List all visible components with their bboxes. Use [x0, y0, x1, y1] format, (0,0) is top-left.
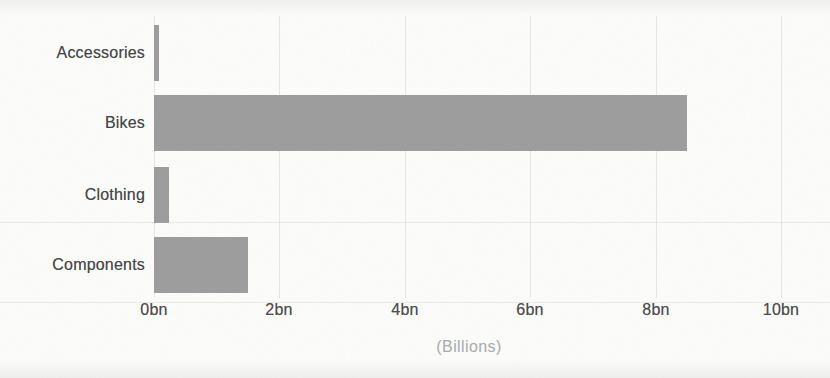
category-label-components: Components — [0, 255, 145, 275]
x-tick-2bn: 2bn — [249, 301, 309, 319]
gridline-8bn — [656, 16, 657, 298]
category-label-accessories: Accessories — [0, 43, 145, 63]
x-tick-10bn: 10bn — [751, 301, 811, 319]
gridline-6bn — [530, 16, 531, 298]
bar-chart-visual: AccessoriesBikesClothingComponents0bn2bn… — [0, 0, 830, 378]
gridline-2bn — [279, 16, 280, 298]
bar-components[interactable] — [154, 237, 248, 293]
category-label-clothing: Clothing — [0, 185, 145, 205]
bar-accessories[interactable] — [154, 25, 159, 81]
x-tick-6bn: 6bn — [500, 301, 560, 319]
plot-area: AccessoriesBikesClothingComponents0bn2bn… — [0, 0, 830, 378]
x-axis-title: (Billions) — [154, 338, 784, 356]
gridline-10bn — [781, 16, 782, 298]
chart-page: AccessoriesBikesClothingComponents0bn2bn… — [0, 0, 830, 378]
x-tick-4bn: 4bn — [375, 301, 435, 319]
gridline-4bn — [405, 16, 406, 298]
bar-clothing[interactable] — [154, 167, 169, 223]
category-label-bikes: Bikes — [0, 113, 145, 133]
x-tick-0bn: 0bn — [124, 301, 184, 319]
bar-bikes[interactable] — [154, 95, 687, 151]
x-tick-8bn: 8bn — [626, 301, 686, 319]
